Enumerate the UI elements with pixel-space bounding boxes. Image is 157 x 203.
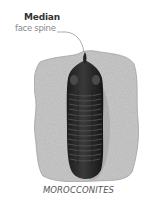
specimen-caption: MOROCCONITES	[0, 185, 157, 195]
trilobite-fossil	[67, 52, 104, 179]
annotation-subtitle: face spine	[15, 23, 56, 33]
leader-line	[57, 32, 84, 52]
annotation-title: Median	[24, 12, 60, 22]
